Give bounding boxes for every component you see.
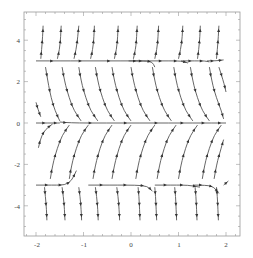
x-tick-label: -2 — [34, 241, 40, 249]
x-tick-label: 2 — [224, 241, 228, 249]
x-tick-label: -1 — [81, 241, 87, 249]
y-tick-label: 0 — [17, 120, 21, 128]
x-tick-label: 0 — [129, 241, 133, 249]
stream-plot: -2 -1 0 1 2 4 2 0 -2 -4 — [0, 0, 253, 258]
plot-background — [0, 0, 253, 258]
x-tick-label: 1 — [177, 241, 181, 249]
y-tick-label: -2 — [14, 161, 20, 169]
y-tick-label: 2 — [17, 78, 21, 86]
y-tick-label: 4 — [17, 37, 21, 45]
y-tick-label: -4 — [14, 203, 20, 211]
